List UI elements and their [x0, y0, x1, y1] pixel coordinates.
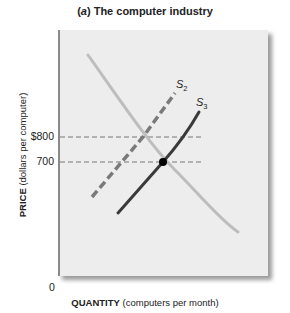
label-s3: S3	[196, 96, 208, 111]
x-axis-label: QUANTITY (computers per month)	[0, 297, 290, 308]
origin-label: 0	[49, 281, 55, 293]
supply-curve-s2	[92, 93, 175, 197]
equilibrium-point	[159, 158, 167, 166]
y-axis-label: PRICE (dollars per computer)	[17, 93, 28, 218]
label-s2: S2	[176, 78, 188, 93]
demand-curve	[88, 55, 238, 232]
